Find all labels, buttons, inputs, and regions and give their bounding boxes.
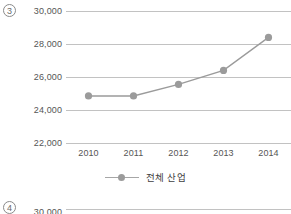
legend-dot-icon — [118, 174, 125, 181]
x-axis: 2010 2011 2012 2013 2014 — [66, 148, 291, 164]
gridline — [66, 209, 291, 210]
x-axis-tick-label: 2010 — [78, 148, 98, 158]
data-point-marker — [175, 81, 182, 88]
chart-figure-4-cropped: 4 30,000 — [0, 196, 291, 214]
legend-marker-icon — [105, 173, 139, 182]
chart-figure-3: 3 30,000 28,000 26,000 24,000 22,000 201… — [0, 0, 291, 192]
y-axis-tick-label: 28,000 — [18, 39, 62, 49]
x-axis-tick-label: 2013 — [213, 148, 233, 158]
figure-index-badge-4: 4 — [3, 201, 16, 214]
chart-legend: 전체 산업 — [0, 168, 291, 186]
x-axis-tick-label: 2014 — [258, 148, 278, 158]
line-series-total-industry — [66, 11, 291, 143]
series-plot-region — [66, 11, 291, 143]
x-axis-tick-label: 2011 — [124, 148, 144, 158]
data-point-marker — [220, 67, 227, 74]
data-point-marker — [85, 92, 92, 99]
y-axis-tick-label: 24,000 — [18, 105, 62, 115]
x-axis-tick-label: 2012 — [168, 148, 188, 158]
data-point-marker — [130, 92, 137, 99]
y-axis-tick-label: 30,000 — [18, 207, 62, 214]
y-axis-tick-label: 22,000 — [18, 138, 62, 148]
legend-label-total-industry: 전체 산업 — [146, 170, 186, 184]
y-axis-tick-label: 26,000 — [18, 72, 62, 82]
y-axis-tick-label: 30,000 — [18, 6, 62, 16]
gridline — [66, 143, 291, 144]
data-point-marker — [265, 34, 272, 41]
